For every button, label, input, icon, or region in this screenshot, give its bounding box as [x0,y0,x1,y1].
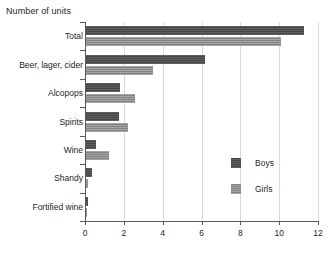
x-axis-tick [163,221,164,225]
gridline [202,22,203,221]
y-axis-tick [80,221,85,222]
category-label-alcopops: Alcopops [48,88,83,98]
bar-boys-beer-lager-cider [85,55,205,64]
legend-label-boys: Boys [255,158,274,168]
y-axis-tick [80,164,85,165]
bar-girls-wine [85,151,109,160]
y-axis-tick [80,79,85,80]
legend-swatch-boys-icon [231,158,241,168]
x-axis-tick-label: 8 [238,228,243,238]
gridline [318,22,319,221]
x-axis-tick-label: 12 [313,228,322,238]
y-axis-tick [80,22,85,23]
legend-label-girls: Girls [255,184,272,194]
bar-boys-wine [85,140,96,149]
category-label-beer-lager-cider: Beer, lager, cider [19,60,83,70]
category-label-fortified-wine: Fortified wine [32,202,83,212]
x-axis-tick [85,221,86,225]
plot-area [85,22,318,221]
x-axis-tick [202,221,203,225]
y-axis-tick [80,193,85,194]
legend-swatch-girls-icon [231,184,241,194]
x-axis-tick-label: 6 [199,228,204,238]
x-axis-tick-label: 2 [121,228,126,238]
y-axis-tick [80,107,85,108]
bar-girls-spirits [85,123,128,132]
bar-chart: Number of units 024681012 TotalBeer, lag… [0,0,336,253]
category-label-spirits: Spirits [59,117,83,127]
axis-title-number-of-units: Number of units [6,6,71,16]
bar-boys-alcopops [85,83,120,92]
x-axis-tick [124,221,125,225]
gridline [124,22,125,221]
category-label-shandy: Shandy [54,173,83,183]
bar-boys-shandy [85,168,92,177]
bar-girls-beer-lager-cider [85,66,153,75]
legend-item-girls: Girls [231,182,274,196]
bar-girls-total [85,37,281,46]
x-axis-tick-label: 4 [160,228,165,238]
chart-legend: Boys Girls [231,156,274,208]
x-axis-tick [240,221,241,225]
legend-item-boys: Boys [231,156,274,170]
bar-boys-spirits [85,112,119,121]
y-axis-tick [80,50,85,51]
category-label-total: Total [65,31,83,41]
bar-girls-alcopops [85,94,135,103]
x-axis-tick-label: 10 [274,228,283,238]
y-axis-line [85,22,86,221]
y-axis-tick [80,136,85,137]
x-axis-tick [318,221,319,225]
gridline [163,22,164,221]
x-axis-tick [279,221,280,225]
category-label-wine: Wine [64,145,83,155]
gridline [279,22,280,221]
x-axis-tick-label: 0 [83,228,88,238]
bar-boys-total [85,26,304,35]
